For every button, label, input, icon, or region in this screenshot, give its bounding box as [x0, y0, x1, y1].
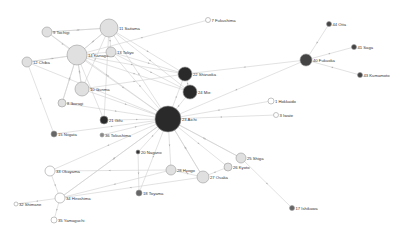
- node-label: 36 Tokushima: [105, 133, 131, 138]
- node-label: 24 Mie: [198, 90, 211, 95]
- node-circle[interactable]: [178, 67, 192, 81]
- arrow-icon: [141, 37, 143, 39]
- nodes-layer: 11 Saitama9 Tochigi14 Kanagawa13 Tokyo12…: [14, 18, 390, 224]
- arrow-icon: [54, 184, 56, 186]
- node-circle[interactable]: [45, 166, 55, 176]
- node-label: 3 Iwate: [280, 113, 294, 118]
- node-circle[interactable]: [42, 27, 52, 37]
- node-label: 15 Niigata: [58, 132, 78, 137]
- node-circle[interactable]: [290, 206, 295, 211]
- node-circle[interactable]: [236, 153, 246, 163]
- node-circle[interactable]: [352, 45, 357, 50]
- node-circle[interactable]: [55, 193, 65, 203]
- node-ibaragi[interactable]: 8 Ibaragi: [58, 99, 83, 107]
- arrow-icon: [235, 89, 237, 91]
- network-graph: 11 Saitama9 Tochigi14 Kanagawa13 Tokyo12…: [0, 0, 402, 239]
- node-gifu[interactable]: 21 Gifu: [100, 116, 123, 124]
- node-nagano[interactable]: 20 Nagano: [136, 150, 162, 155]
- arrow-icon: [78, 29, 80, 31]
- arrow-icon: [133, 73, 135, 75]
- node-circle[interactable]: [100, 133, 104, 137]
- node-circle[interactable]: [224, 163, 232, 171]
- node-fukuoka[interactable]: 40 Fukuoka: [300, 54, 336, 66]
- arrow-icon: [136, 119, 138, 121]
- node-gunma[interactable]: 10 Gunma: [75, 82, 110, 96]
- node-label: 34 Hiroshima: [66, 196, 91, 201]
- node-circle[interactable]: [327, 22, 332, 27]
- node-tokushima[interactable]: 36 Tokushima: [100, 133, 131, 138]
- node-circle[interactable]: [183, 85, 197, 99]
- node-shizuoka[interactable]: 22 Shizuoka: [178, 67, 217, 81]
- node-circle[interactable]: [75, 82, 89, 96]
- node-saga[interactable]: 41 Saga: [352, 45, 374, 51]
- node-circle[interactable]: [268, 98, 274, 104]
- node-circle[interactable]: [106, 47, 116, 57]
- node-kumamoto[interactable]: 43 Kumamoto: [358, 73, 391, 79]
- arrow-icon: [220, 116, 222, 118]
- node-label: 26 Kyoto: [233, 165, 250, 170]
- node-hokkaido[interactable]: 1 Hokkaido: [268, 98, 297, 104]
- node-circle[interactable]: [58, 99, 66, 107]
- node-hyogo[interactable]: 28 Hyogo: [166, 165, 196, 175]
- node-toyama[interactable]: 18 Toyama: [136, 190, 164, 196]
- node-label: 21 Gifu: [109, 118, 123, 123]
- node-label: 10 Gunma: [90, 87, 110, 92]
- node-circle[interactable]: [300, 54, 312, 66]
- node-kyoto[interactable]: 26 Kyoto: [224, 163, 250, 171]
- arrow-icon: [40, 98, 41, 100]
- node-oita[interactable]: 44 Oita: [327, 22, 347, 28]
- node-label: 20 Nagano: [141, 150, 162, 155]
- arrow-icon: [328, 53, 330, 55]
- node-tokyo[interactable]: 13 Tokyo: [106, 47, 134, 57]
- arrow-icon: [169, 144, 171, 146]
- node-saitama[interactable]: 11 Saitama: [100, 19, 141, 37]
- node-circle[interactable]: [155, 106, 181, 132]
- node-shimane[interactable]: 32 Shimane: [14, 202, 42, 207]
- node-label: 40 Fukuoka: [313, 58, 336, 63]
- node-okayama[interactable]: 33 Okayama: [45, 166, 80, 176]
- node-circle[interactable]: [100, 19, 118, 37]
- arrow-icon: [214, 171, 216, 172]
- node-label: 35 Yamaguchi: [58, 218, 84, 223]
- node-label: 23 Aichi: [182, 117, 197, 122]
- node-circle[interactable]: [274, 113, 279, 118]
- arrow-icon: [187, 83, 189, 85]
- node-label: 12 Chiba: [33, 60, 50, 65]
- node-circle[interactable]: [100, 116, 108, 124]
- arrow-icon: [176, 96, 177, 98]
- node-iwate[interactable]: 3 Iwate: [274, 113, 294, 119]
- node-label: 22 Shizuoka: [193, 72, 217, 77]
- node-shiga[interactable]: 25 Shiga: [236, 153, 264, 163]
- node-tochigi[interactable]: 9 Tochigi: [42, 27, 70, 37]
- node-label: 25 Shiga: [247, 156, 264, 161]
- arrow-icon: [109, 170, 111, 172]
- node-circle[interactable]: [197, 171, 209, 183]
- node-fukushima[interactable]: 7 Fukushima: [206, 18, 237, 24]
- arrow-icon: [107, 144, 109, 146]
- node-label: 43 Kumamoto: [364, 73, 391, 78]
- arrow-icon: [138, 172, 140, 174]
- node-circle[interactable]: [14, 202, 18, 206]
- node-ishikawa[interactable]: 17 Ishikawa: [290, 206, 319, 212]
- node-label: 32 Shimane: [19, 202, 42, 207]
- node-circle[interactable]: [22, 57, 32, 67]
- node-circle[interactable]: [166, 165, 176, 175]
- node-circle[interactable]: [136, 150, 140, 154]
- node-circle[interactable]: [136, 190, 142, 196]
- node-label: 18 Toyama: [143, 191, 164, 196]
- arrow-icon: [153, 156, 154, 158]
- node-circle[interactable]: [51, 131, 57, 137]
- arrow-icon: [56, 209, 58, 211]
- node-label: 33 Okayama: [56, 169, 80, 174]
- node-aichi[interactable]: 23 Aichi: [155, 106, 197, 132]
- node-circle[interactable]: [206, 18, 211, 23]
- node-niigata[interactable]: 15 Niigata: [51, 131, 78, 137]
- node-circle[interactable]: [358, 73, 363, 78]
- node-label: 13 Tokyo: [117, 50, 134, 55]
- node-circle[interactable]: [67, 45, 87, 65]
- node-label: 11 Saitama: [119, 26, 141, 31]
- node-yamaguchi[interactable]: 35 Yamaguchi: [51, 217, 84, 223]
- node-mie[interactable]: 24 Mie: [183, 85, 211, 99]
- node-circle[interactable]: [51, 217, 57, 223]
- node-label: 41 Saga: [358, 45, 374, 50]
